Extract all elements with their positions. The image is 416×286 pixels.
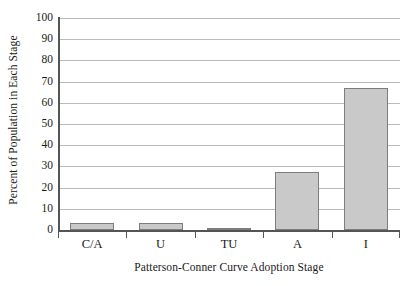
x-axis-title: Patterson-Conner Curve Adoption Stage [58,261,400,273]
plot-area [58,18,400,230]
x-axis-tick [399,231,400,238]
y-axis-tick-label: 80 [42,55,54,67]
y-axis-tick-label: 30 [42,161,54,173]
y-axis-tick-label: 90 [42,33,54,45]
x-axis-tick-label: U [156,238,165,251]
y-axis-tick-label: 20 [42,182,54,194]
bar [139,223,183,230]
x-axis-tick [195,231,196,238]
x-axis-tick [332,231,333,238]
y-axis-tick-label: 40 [42,139,54,151]
bar [275,172,319,230]
bar [70,223,114,230]
x-axis-tick-label: TU [221,238,238,251]
y-axis-tick-label: 10 [42,203,54,215]
y-axis-tick-label: 0 [47,224,53,236]
x-axis-tick [126,231,127,238]
y-axis-title-text: Percent of Population in Each Stage [7,35,19,204]
y-axis-tick-label: 70 [42,76,54,88]
y-axis-tick-label: 50 [42,118,54,130]
y-axis-tick-labels: 0102030405060708090100 [26,18,57,230]
y-axis-tick-label: 60 [42,97,54,109]
y-axis-title: Percent of Population in Each Stage [0,0,26,240]
x-axis-tick-label: C/A [82,238,103,251]
x-axis-tick-labels: C/AUTUAI [58,238,400,256]
bar-chart: Percent of Population in Each Stage 0102… [0,0,416,286]
x-axis-tick-label: I [364,238,368,251]
bars-layer [58,18,400,230]
x-axis-tick [263,231,264,238]
bar [344,88,388,230]
x-axis-tick [58,231,59,238]
x-axis-tick-label: A [293,238,302,251]
y-axis-line [58,17,60,231]
y-axis-tick-label: 100 [36,12,53,24]
